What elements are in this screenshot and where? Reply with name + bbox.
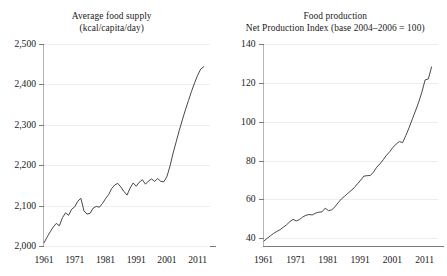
y-tick-label-left: 2,400: [14, 80, 36, 90]
two-panel-line-chart-figure: Average food supply (kcal/capita/day) 2,…: [0, 0, 447, 276]
gridline-left: [44, 246, 210, 247]
y-tick-label-right: 80: [246, 156, 256, 166]
x-tick-label-right: 1971: [286, 255, 305, 265]
y-tick-label-right: 120: [241, 78, 255, 88]
plot-area-left: 2,0002,1002,2002,3002,4002,5001961197119…: [44, 44, 210, 246]
panel-food-production: Food production Net Production Index (ba…: [224, 0, 447, 276]
panel-left-title-line1: Average food supply: [0, 10, 224, 22]
y-tick-label-right: 60: [246, 195, 256, 205]
x-tick-label-left: 2011: [188, 255, 207, 265]
y-tick-label-right: 140: [241, 39, 255, 49]
series-layer-left: [44, 44, 210, 246]
x-tick-label-left: 2001: [157, 255, 176, 265]
y-tick-left: [39, 246, 44, 247]
x-tick-label-left: 1981: [96, 255, 115, 265]
y-tick-label-left: 2,200: [14, 160, 36, 170]
panel-right-title: Food production Net Production Index (ba…: [224, 10, 447, 34]
x-tick-label-left: 1961: [34, 255, 53, 265]
series-layer-right: [264, 44, 438, 246]
plot-area-right: 406080100120140196119711981199120012011: [264, 44, 438, 246]
x-tick-label-right: 1981: [318, 255, 337, 265]
panel-average-food-supply: Average food supply (kcal/capita/day) 2,…: [0, 0, 224, 276]
y-tick-label-left: 2,500: [14, 39, 36, 49]
x-axis-line-right: [263, 246, 444, 247]
panel-right-title-line2: Net Production Index (base 2004–2006 = 1…: [224, 22, 447, 34]
x-tick-label-right: 2001: [383, 255, 402, 265]
y-tick-label-right: 40: [246, 233, 256, 243]
series-line-left: [44, 67, 204, 243]
y-tick-label-right: 100: [241, 117, 255, 127]
panel-left-title-line2: (kcal/capita/day): [0, 22, 224, 34]
x-tick-label-right: 1991: [351, 255, 370, 265]
y-tick-label-left: 2,100: [14, 201, 36, 211]
y-tick-label-left: 2,300: [14, 120, 36, 130]
series-line-right: [264, 67, 432, 241]
x-tick-label-right: 1961: [254, 255, 273, 265]
x-tick-label-left: 1971: [65, 255, 84, 265]
x-tick-label-left: 1991: [127, 255, 146, 265]
panel-right-title-line1: Food production: [224, 10, 447, 22]
panel-left-title: Average food supply (kcal/capita/day): [0, 10, 224, 34]
x-tick-label-right: 2011: [415, 255, 434, 265]
y-tick-label-left: 2,000: [14, 241, 36, 251]
